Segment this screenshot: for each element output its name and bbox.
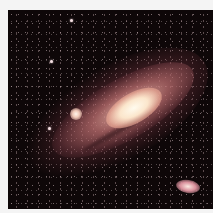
galaxy-photo	[8, 10, 213, 209]
star	[48, 127, 51, 130]
star	[70, 19, 73, 22]
satellite-galaxy-m32	[70, 108, 82, 120]
star	[50, 60, 53, 63]
